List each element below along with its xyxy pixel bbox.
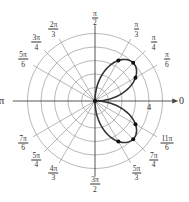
angle-label-a270: 3π2 [90,176,100,193]
angle-label-a135: 3π4 [32,34,42,51]
angle-label-a315: 7π4 [149,151,159,168]
arrow-icon [172,99,178,104]
pole-point [93,99,97,103]
data-point [131,137,135,141]
data-point [133,76,137,80]
data-point [116,59,120,63]
angle-label-a0: 0 [179,96,184,106]
grid-spoke [59,101,95,163]
angle-label-a180: π [0,96,4,106]
grid-spoke [95,50,146,101]
polar-plot [0,0,189,202]
angle-label-a240: 4π3 [49,164,59,181]
angle-label-a30: π6 [164,51,170,68]
angle-label-a60: π3 [134,21,140,38]
grid-spoke [59,39,95,101]
data-point [131,61,135,65]
angle-label-a300: 5π3 [132,164,142,181]
grid-spoke [95,101,146,152]
radial-tick-label: 4 [147,103,152,112]
angle-label-a45: π4 [151,34,157,51]
angle-label-a210: 7π6 [18,134,28,151]
data-point [116,139,120,143]
grid-spoke [33,101,95,137]
grid-spoke [44,101,95,152]
angle-label-a120: 2π3 [49,21,59,38]
angle-label-a90: π2 [92,9,98,26]
data-point [133,122,137,126]
angle-label-a150: 5π6 [18,51,28,68]
grid-spoke [33,65,95,101]
angle-label-a225: 5π4 [32,151,42,168]
angle-label-a330: 11π6 [160,134,173,151]
grid-spoke [44,50,95,101]
